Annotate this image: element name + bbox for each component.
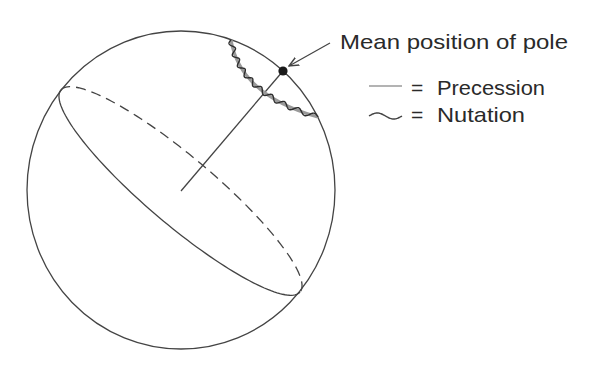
precession-nutation-diagram: Mean position of pole = Precession = Nut… xyxy=(0,0,593,366)
rotation-axis xyxy=(181,71,283,191)
legend-nutation-equals: = xyxy=(411,103,423,126)
equator-front-solid xyxy=(59,90,300,295)
equator-back-dashed xyxy=(61,87,302,292)
legend-nutation-label: Nutation xyxy=(437,103,525,126)
annotation-arrow xyxy=(289,43,330,66)
legend-precession-equals: = xyxy=(411,76,423,99)
precession-path xyxy=(231,40,318,117)
legend-nutation-symbol xyxy=(369,113,402,119)
nutation-wave xyxy=(229,40,318,117)
legend: = Precession = Nutation xyxy=(369,76,545,126)
legend-precession-label: Precession xyxy=(437,76,545,99)
mean-pole-dot xyxy=(278,66,287,75)
annotation-mean-position-of-pole: Mean position of pole xyxy=(340,30,568,53)
